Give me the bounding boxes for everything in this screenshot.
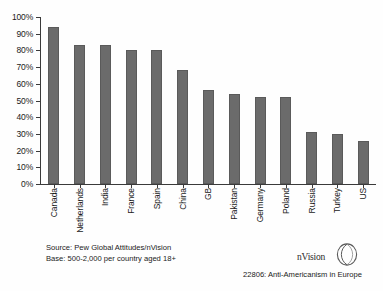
x-tick-label: US [358,188,368,200]
y-tick-label: 70% [17,63,33,72]
y-tick-label: 50% [17,96,33,105]
chart-caption: 22806: Anti-Americanism in Europe [243,270,362,280]
source-line-2: Base: 500-2,000 per country aged 18+ [46,254,176,265]
bar[interactable] [100,45,111,184]
x-tick-label: China [178,188,188,210]
bar-slot [144,17,170,184]
x-tick-label: Russia [307,188,317,213]
bar-slot [196,17,222,184]
bar-slot [273,17,299,184]
x-tick-label: France [126,188,136,214]
x-label-slot: Pakistan [221,188,247,246]
bar-slot [41,17,67,184]
y-tick-label: 40% [17,113,33,122]
logo-text: nVision [297,252,325,262]
x-label-slot: Canada [41,188,67,246]
bar-slot [324,17,350,184]
x-tick-label: Turkey [332,188,342,213]
y-tick-label: 30% [17,129,33,138]
x-tick-label: Spain [152,188,162,209]
bar-slot [247,17,273,184]
y-tick-label: 10% [17,163,33,172]
bar-slot [350,17,376,184]
source-note: Source: Pew Global Attitudes/nVision Bas… [46,243,176,264]
bar-slot [67,17,93,184]
y-tick-label: 60% [17,79,33,88]
x-label-slot: US [350,188,376,246]
x-tick-label: GB [203,188,213,200]
bar-slot [299,17,325,184]
y-tick-label: 100% [12,13,33,22]
x-label-slot: Germany [247,188,273,246]
x-tick-label: Pakistan [229,188,239,220]
y-tick-label: 90% [17,29,33,38]
x-label-slot: China [170,188,196,246]
x-label-slot: India [93,188,119,246]
x-label-slot: GB [196,188,222,246]
x-label-slot: Spain [144,188,170,246]
bar[interactable] [126,50,137,184]
leaf-circle-icon [336,243,358,270]
bar[interactable] [177,70,188,184]
bar[interactable] [151,50,162,184]
y-axis: 100% 90% 80% 70% 60% 50% 40% 30% 20% 10%… [0,8,36,193]
x-tick-label: Poland [281,188,291,214]
bar[interactable] [229,94,240,184]
bar[interactable] [358,141,369,184]
nvision-logo: nVision [297,243,367,267]
bar[interactable] [306,132,317,184]
y-tick-label: 20% [17,146,33,155]
source-line-1: Source: Pew Global Attitudes/nVision [46,243,176,254]
x-label-slot: Poland [273,188,299,246]
bar-slot [118,17,144,184]
bar[interactable] [255,97,266,184]
x-label-slot: Turkey [324,188,350,246]
bar[interactable] [203,90,214,184]
y-tick-label: 0% [21,180,33,189]
bar-slot [221,17,247,184]
bar[interactable] [48,27,59,184]
plot-area: 100% 90% 80% 70% 60% 50% 40% 30% 20% 10%… [0,8,383,193]
x-label-slot: France [118,188,144,246]
bar-slot [93,17,119,184]
x-label-slot: Netherlands [67,188,93,246]
x-axis-labels: CanadaNetherlandsIndiaFranceSpainChinaGB… [41,188,376,246]
x-tick-label: India [100,188,110,206]
bar[interactable] [332,134,343,184]
bar[interactable] [74,45,85,184]
bar-slot [170,17,196,184]
bar-chart-figure: 100% 90% 80% 70% 60% 50% 40% 30% 20% 10%… [0,0,383,291]
x-tick-label: Germany [255,188,265,222]
y-tick-label: 80% [17,46,33,55]
x-tick-label: Netherlands [75,188,85,233]
x-tick-label: Canada [49,188,59,217]
bars-container [41,17,376,184]
x-label-slot: Russia [299,188,325,246]
bar[interactable] [280,97,291,184]
